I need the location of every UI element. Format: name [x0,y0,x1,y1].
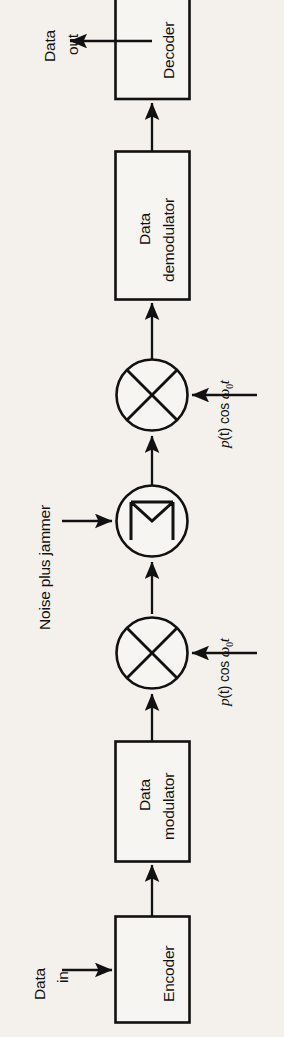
label-noise-plus-jammer: Noise plus jammer [37,505,53,630]
carrier-rx-cos: cos [216,403,232,424]
block-mixer-tx [117,618,188,689]
carrier-tx-sub: 0 [225,642,235,647]
carrier-rx-arg: (t) [216,428,232,441]
carrier-tx-p: p [215,698,232,706]
carrier-tx-t: t [215,638,232,642]
block-summer [117,486,188,557]
block-label-demodulator-line1: Data [137,213,153,245]
carrier-rx-p: p [215,440,232,448]
label-data-out-line1: Data [42,30,58,62]
block-label-decoder: Decoder [161,22,177,79]
label-carrier-rx: p(t) cos ω0t [216,380,236,448]
block-label-modulator-line1: Data [137,779,153,811]
block-encoder [116,917,190,1023]
label-carrier-tx: p(t) cos ω0t [216,638,236,706]
carrier-tx-omega: ω [216,647,232,657]
carrier-tx-arg: (t) [216,686,232,699]
block-label-demodulator-line2: demodulator [161,198,177,282]
carrier-tx-cos: cos [216,661,232,682]
block-mixer-rx [117,360,188,431]
label-data-in-line2: in [55,971,71,983]
carrier-rx-omega: ω [216,389,232,399]
label-data-out-line2: out [65,34,81,55]
carrier-rx-t: t [215,380,232,384]
carrier-rx-sub: 0 [225,384,235,389]
block-decoder [116,0,190,99]
label-data-in-line1: Data [32,968,48,1000]
block-label-modulator-line2: modulator [161,773,177,840]
block-label-encoder: Encoder [161,946,177,1002]
